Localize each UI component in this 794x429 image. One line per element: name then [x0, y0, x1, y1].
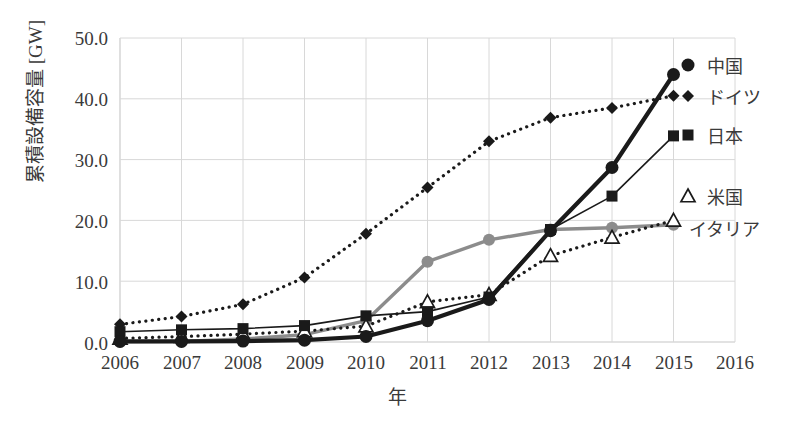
plot-area — [0, 0, 794, 429]
legend-label-germany: ドイツ — [707, 83, 761, 109]
legend-label-italy: イタリア — [689, 215, 760, 241]
legend-label-china: 中国 — [707, 52, 743, 78]
legend-label-japan: 日本 — [707, 122, 743, 148]
legend-label-usa: 米国 — [707, 183, 743, 209]
chart-container: 累積設備容量 [GW] 年 0.0 10.0 20.0 30.0 40.0 50… — [0, 0, 794, 429]
